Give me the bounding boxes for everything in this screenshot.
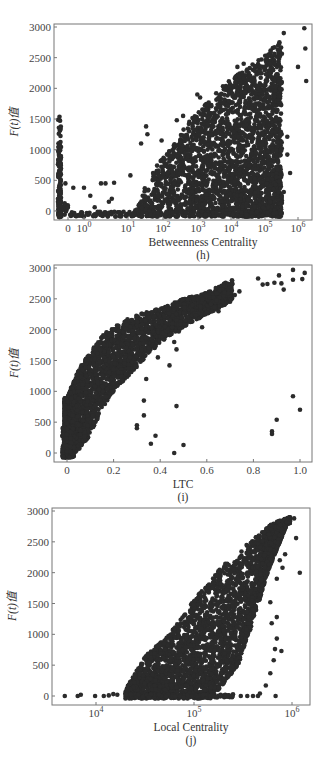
y-tick-label: 500	[33, 659, 50, 671]
y-tick-label: 1000	[27, 628, 50, 640]
y-tick-label: 2500	[27, 536, 50, 548]
x-tick-label: 104	[89, 705, 104, 719]
data-points	[63, 515, 303, 701]
y-tick-label: 0	[44, 690, 50, 702]
y-tick-label: 3000	[27, 505, 50, 517]
y-tick-label: 1500	[27, 598, 50, 610]
x-tick-label: 106	[285, 705, 300, 719]
y-axis-title: F(t)值	[6, 590, 19, 622]
x-tick-label: 105	[187, 705, 202, 719]
x-axis-title: Local Centrality	[153, 721, 228, 734]
chart-panel-j: 050010001500200025003000F(t)值104105106Lo…	[0, 0, 331, 759]
panel-sublabel: (j)	[186, 734, 197, 747]
scatter-chart-local-centrality: 050010001500200025003000F(t)值104105106Lo…	[0, 0, 331, 759]
y-tick-label: 2000	[27, 567, 50, 579]
